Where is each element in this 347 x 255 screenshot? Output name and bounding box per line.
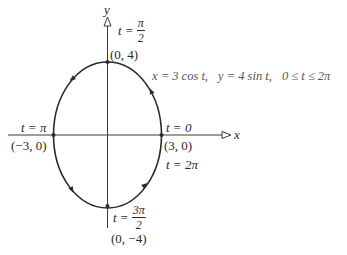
bottom-t-denominator: 2	[136, 218, 142, 231]
point-left	[52, 133, 56, 137]
left-t-label: t = π	[21, 121, 46, 134]
top-t-numerator: π	[137, 17, 145, 31]
point-bottom	[106, 204, 110, 208]
bottom-coord-label: (0, −4)	[111, 232, 147, 245]
top-t-denominator: 2	[138, 31, 144, 44]
parametric-equation: x = 3 cos t, y = 4 sin t, 0 ≤ t ≤ 2π	[152, 70, 330, 83]
y-axis-label: y	[104, 3, 110, 16]
equation-x: x = 3 cos t,	[152, 70, 208, 83]
equation-range: 0 ≤ t ≤ 2π	[282, 70, 330, 83]
right-t-start-label: t = 0	[166, 121, 191, 134]
parametric-ellipse-diagram: y x t = π 2 (0, 4) x = 3 cos t, y = 4 si…	[0, 0, 347, 255]
point-top	[106, 60, 110, 64]
left-coord-label: (−3, 0)	[11, 139, 47, 152]
right-coord-label: (3, 0)	[164, 139, 192, 152]
top-t-prefix: t =	[118, 24, 134, 37]
top-t-label: t = π 2	[118, 17, 145, 44]
x-axis-arrow-icon	[222, 132, 231, 139]
y-axis-arrow-icon	[104, 17, 111, 26]
point-right	[160, 133, 164, 137]
right-t-end-label: t = 2π	[166, 158, 198, 171]
x-axis-label: x	[234, 128, 240, 141]
equation-y: y = 4 sin t,	[218, 70, 272, 83]
bottom-t-numerator: 3π	[132, 204, 146, 218]
top-coord-label: (0, 4)	[110, 48, 138, 61]
bottom-t-label: t = 3π 2	[113, 204, 146, 231]
bottom-t-fraction: 3π 2	[132, 204, 146, 231]
top-t-fraction: π 2	[137, 17, 145, 44]
bottom-t-prefix: t =	[113, 211, 129, 224]
